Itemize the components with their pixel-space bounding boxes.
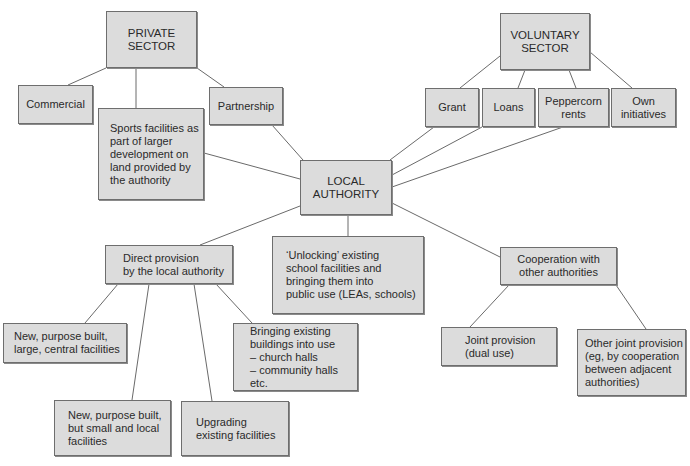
- node-label: New, purpose built, large, central facil…: [14, 330, 120, 356]
- node-label: ‘Unlocking’ existing school facilities a…: [286, 249, 416, 301]
- edge-voluntary-own: [590, 52, 632, 88]
- edge-voluntary-loans: [518, 70, 525, 88]
- edge-direct-upgrading: [194, 284, 212, 401]
- node-upgrading: Upgrading existing facilities: [181, 401, 289, 456]
- node-label: Partnership: [218, 100, 274, 113]
- edge-peppercorn-local: [392, 127, 563, 187]
- edge-loans-local: [392, 127, 482, 175]
- node-new-large: New, purpose built, large, central facil…: [3, 323, 127, 363]
- node-label: Joint provision (dual use): [465, 334, 535, 360]
- edge-direct-newlarge: [85, 284, 118, 323]
- edge-private-commercial: [68, 68, 106, 85]
- node-label: Cooperation with other authorities: [517, 253, 600, 279]
- node-new-small: New, purpose built, but small and local …: [54, 400, 171, 456]
- node-label: Loans: [494, 101, 524, 114]
- edge-grant-local: [390, 127, 434, 160]
- node-unlocking: ‘Unlocking’ existing school facilities a…: [272, 236, 424, 314]
- node-label: Peppercorn rents: [545, 95, 602, 121]
- node-private-sector: PRIVATE SECTOR: [106, 11, 197, 68]
- node-bringing-existing: Bringing existing buildings into use – c…: [233, 323, 358, 391]
- node-label: LOCAL AUTHORITY: [313, 175, 379, 201]
- edge-private-partnership: [197, 68, 224, 87]
- node-label: PRIVATE SECTOR: [128, 27, 176, 53]
- node-label: Other joint provision (eg, by cooperatio…: [585, 337, 683, 389]
- node-label: Upgrading existing facilities: [196, 416, 275, 442]
- node-grant: Grant: [425, 88, 479, 127]
- edge-voluntary-peppercorn: [569, 70, 576, 88]
- edge-coop-joint: [470, 285, 509, 327]
- node-direct-provision: Direct provision by the local authority: [105, 245, 233, 284]
- node-label: Bringing existing buildings into use – c…: [250, 325, 357, 390]
- edge-voluntary-grant: [460, 56, 500, 88]
- node-loans: Loans: [482, 88, 535, 127]
- node-cooperation: Cooperation with other authorities: [500, 247, 617, 285]
- node-peppercorn-rents: Peppercorn rents: [538, 88, 609, 127]
- node-joint-provision: Joint provision (dual use): [441, 327, 557, 366]
- edge-coop-other: [616, 285, 646, 329]
- node-voluntary-sector: VOLUNTARY SECTOR: [500, 13, 590, 70]
- node-label: Own initiatives: [621, 95, 666, 121]
- node-local-authority: LOCAL AUTHORITY: [300, 160, 392, 215]
- node-label: Sports facilities as part of larger deve…: [110, 122, 199, 187]
- edge-direct-bringing: [216, 284, 252, 323]
- edge-sports-local: [204, 153, 300, 179]
- node-sports-facilities: Sports facilities as part of larger deve…: [98, 108, 204, 200]
- edge-partnership-local: [272, 125, 303, 160]
- node-label: Direct provision by the local authority: [123, 252, 224, 278]
- node-partnership: Partnership: [209, 87, 283, 125]
- edge-direct-newsmall: [132, 284, 149, 400]
- node-label: Commercial: [26, 98, 85, 111]
- node-label: Grant: [438, 101, 466, 114]
- node-other-joint: Other joint provision (eg, by cooperatio…: [577, 329, 686, 396]
- node-label: New, purpose built, but small and local …: [68, 409, 162, 448]
- node-commercial: Commercial: [18, 85, 93, 124]
- node-label: VOLUNTARY SECTOR: [510, 29, 579, 55]
- node-own-initiatives: Own initiatives: [611, 88, 676, 127]
